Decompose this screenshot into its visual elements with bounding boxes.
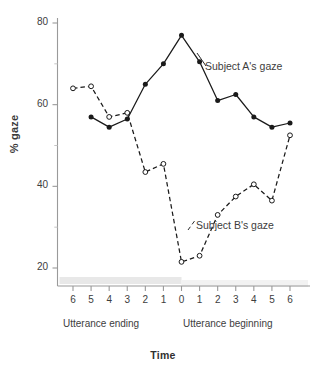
x-tick-label: 2 xyxy=(137,294,153,305)
phase-label-utterance-beginning: Utterance beginning xyxy=(183,318,273,329)
x-tick-label: 6 xyxy=(282,294,298,305)
data-point-subject-b xyxy=(125,110,130,115)
gaze-line-chart: % gaze Subject A's gaze Subject B's gaze… xyxy=(0,0,326,371)
x-tick-label: 4 xyxy=(246,294,262,305)
x-tick-label: 5 xyxy=(83,294,99,305)
x-tick-label: 1 xyxy=(155,294,171,305)
series-label-subject-b: Subject B's gaze xyxy=(196,219,274,231)
data-point-subject-a xyxy=(215,98,220,103)
data-point-subject-b xyxy=(251,182,256,187)
data-point-subject-a xyxy=(107,125,112,130)
x-tick-label: 3 xyxy=(119,294,135,305)
data-point-subject-b xyxy=(89,84,94,89)
x-tick-label: 5 xyxy=(264,294,280,305)
x-tick-label: 2 xyxy=(210,294,226,305)
data-point-subject-a xyxy=(233,92,238,97)
series-path-subject-a xyxy=(91,35,290,127)
data-point-subject-b xyxy=(197,253,202,258)
x-tick-label: 3 xyxy=(228,294,244,305)
y-tick-label: 40 xyxy=(22,179,48,190)
x-tick-label: 6 xyxy=(65,294,81,305)
data-point-subject-a xyxy=(161,61,166,66)
leader-line-subject-b xyxy=(188,219,196,230)
data-point-subject-a xyxy=(89,114,94,119)
data-point-subject-b xyxy=(107,115,112,120)
data-point-subject-a xyxy=(179,33,184,38)
data-point-subject-b xyxy=(71,86,76,91)
chart-canvas xyxy=(0,0,326,371)
data-point-subject-b xyxy=(179,259,184,264)
data-point-subject-a xyxy=(288,121,293,126)
x-tick-label: 1 xyxy=(192,294,208,305)
phase-label-utterance-ending: Utterance ending xyxy=(63,318,139,329)
data-point-subject-b xyxy=(288,133,293,138)
data-point-subject-a xyxy=(251,114,256,119)
x-axis-title: Time xyxy=(0,349,326,361)
phase-band-left xyxy=(60,277,182,284)
data-point-subject-b xyxy=(143,170,148,175)
y-axis-title: % gaze xyxy=(8,99,20,169)
data-point-subject-a xyxy=(143,82,148,87)
data-point-subject-b xyxy=(233,194,238,199)
data-point-subject-b xyxy=(215,213,220,218)
data-point-subject-b xyxy=(161,161,166,166)
data-point-subject-b xyxy=(270,198,275,203)
x-tick-label: 4 xyxy=(101,294,117,305)
series-label-subject-a: Subject A's gaze xyxy=(205,60,282,72)
data-point-subject-a xyxy=(269,125,274,130)
y-tick-label: 60 xyxy=(22,98,48,109)
series-path-subject-b xyxy=(73,86,290,262)
y-tick-label: 80 xyxy=(22,16,48,27)
y-tick-label: 20 xyxy=(22,261,48,272)
x-tick-label: 0 xyxy=(174,294,190,305)
